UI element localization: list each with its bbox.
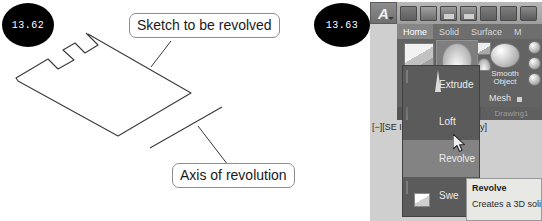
tab-solid[interactable]: Solid [433, 24, 465, 39]
axis-callout-label: Axis of revolution [172, 163, 295, 188]
flyout-item-label: Loft [439, 116, 456, 127]
smooth-object-label-line2: Object [493, 78, 516, 86]
figure-13-62: 13.62 Sketch to be revolved Axis of revo… [0, 0, 310, 221]
sketch-leader-line [151, 41, 171, 67]
smooth-object-icon [490, 43, 520, 68]
mesh-split-icon[interactable] [528, 73, 541, 86]
flyout-item-label: Extrude [439, 79, 473, 90]
loft-icon [406, 107, 408, 120]
axis-leader-line [198, 126, 228, 165]
export-icon[interactable] [480, 6, 497, 21]
tab-mesh[interactable]: M [508, 24, 528, 39]
sweep-icon [406, 181, 408, 194]
open-folder-icon[interactable] [420, 6, 437, 21]
flyout-item-extrude[interactable]: Extrude [403, 66, 479, 103]
new-file-icon[interactable] [400, 6, 417, 21]
flyout-item-label: Swe [439, 190, 458, 201]
save-as-icon[interactable] [460, 6, 477, 21]
figure-number-badge: 13.63 [314, 3, 370, 47]
sketch-callout-label: Sketch to be revolved [129, 13, 280, 38]
cad-application-screenshot: A Home Solid Surface M Box [370, 2, 542, 221]
revolve-icon [406, 144, 408, 157]
print-icon[interactable] [520, 6, 537, 21]
axis-of-revolution-line [150, 107, 222, 148]
smooth-object-button[interactable]: Smooth Object [483, 41, 527, 93]
figure-13-63: A Home Solid Surface M Box [310, 0, 542, 221]
mesh-panel-expand-icon[interactable] [517, 97, 522, 102]
tab-home[interactable]: Home [397, 24, 433, 39]
application-menu-button[interactable]: A [370, 2, 397, 24]
mouse-cursor-icon [453, 134, 467, 154]
mesh-refine-icon[interactable] [528, 41, 541, 54]
extrude-icon [406, 70, 408, 83]
flyout-item-revolve[interactable]: Revolve [403, 140, 479, 177]
chevron-down-icon[interactable] [388, 17, 394, 20]
flyout-item-label: Revolve [439, 153, 475, 164]
tooltip-title: Revolve [472, 183, 536, 195]
save-icon[interactable] [440, 6, 457, 21]
ribbon-tab-strip: Home Solid Surface M [397, 24, 542, 39]
figure-number-badge: 13.62 [2, 3, 54, 47]
mesh-crease-icon[interactable] [528, 57, 541, 70]
drawing1-tab[interactable]: Drawing1 [481, 107, 542, 120]
revolve-tooltip: Revolve Creates a 3D solid or [466, 178, 542, 221]
undo-icon[interactable] [500, 6, 517, 21]
flyout-item-loft[interactable]: Loft [403, 103, 479, 140]
mesh-panel-label: Mesh [489, 93, 511, 103]
tab-surface[interactable]: Surface [465, 24, 508, 39]
tooltip-description: Creates a 3D solid or [472, 198, 536, 210]
quick-access-toolbar: A [370, 2, 542, 24]
